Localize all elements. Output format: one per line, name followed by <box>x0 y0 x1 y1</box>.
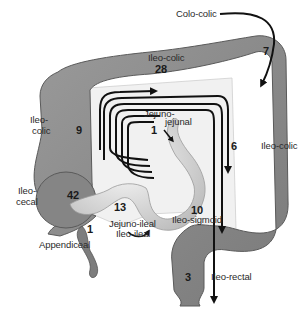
label-jejuno-ileal-2: Ileo-ileal <box>116 229 150 239</box>
count-colo-colic: 7 <box>263 46 269 57</box>
label-ileo-colic-left-2: colic <box>32 126 51 136</box>
count-ileo-colic-right: 6 <box>231 141 237 152</box>
label-ileo-cecal-2: cecal <box>16 197 38 207</box>
count-ileo-rectal: 3 <box>185 272 191 283</box>
label-appendiceal: Appendiceal <box>39 240 90 250</box>
count-ileo-cecal: 42 <box>67 190 79 201</box>
count-jejuno-jejunal: 1 <box>151 125 157 136</box>
label-ileo-colic-left-1: Ileo- <box>30 115 48 125</box>
intussusception-diagram: Colo-colic 7 Ileo-colic 28 Ileo- colic 9… <box>0 0 307 318</box>
label-ileo-sigmoid: Ileo-sigmoid <box>172 215 222 225</box>
label-ileo-rectal: Ileo-rectal <box>211 272 252 282</box>
count-jejuno-ileal: 13 <box>114 202 126 213</box>
count-ileo-colic-left: 9 <box>76 125 82 136</box>
intestine-illustration <box>0 0 307 318</box>
label-ileo-colic-right: Ileo-colic <box>261 141 298 151</box>
label-colo-colic: Colo-colic <box>176 9 217 19</box>
label-ileo-cecal-1: Ileo- <box>18 186 36 196</box>
label-ileo-colic-transverse: Ileo-colic <box>148 53 185 63</box>
count-ileo-sigmoid: 10 <box>191 205 203 216</box>
label-jejuno-jejunal-2: jejunal <box>165 117 192 127</box>
count-appendiceal: 1 <box>87 224 93 235</box>
count-ileo-colic-transverse: 28 <box>155 64 167 75</box>
